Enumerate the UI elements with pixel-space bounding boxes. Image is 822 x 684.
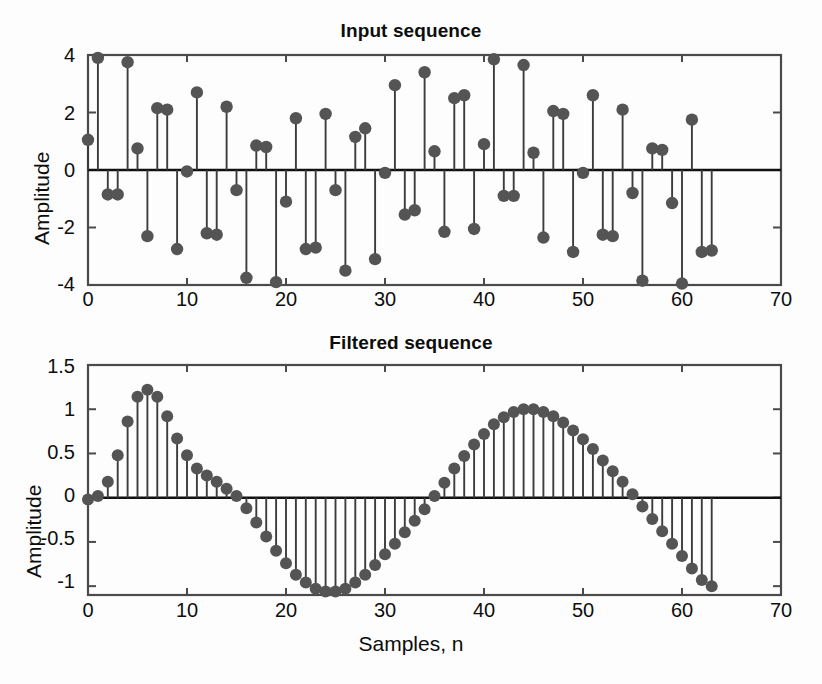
data-marker bbox=[587, 443, 599, 455]
data-marker bbox=[676, 277, 688, 289]
data-marker bbox=[468, 439, 480, 451]
data-marker bbox=[240, 272, 252, 284]
data-marker bbox=[517, 59, 529, 71]
data-marker bbox=[636, 274, 648, 286]
data-marker bbox=[220, 101, 232, 113]
data-marker bbox=[686, 562, 698, 574]
filtered-sequence-panel: Filtered sequence Amplitude Samples, n 1… bbox=[0, 320, 822, 684]
data-marker bbox=[627, 488, 639, 500]
data-marker bbox=[339, 583, 351, 595]
data-marker bbox=[171, 432, 183, 444]
data-marker bbox=[300, 577, 312, 589]
data-marker bbox=[706, 244, 718, 256]
data-marker bbox=[399, 526, 411, 538]
data-marker bbox=[122, 416, 134, 428]
data-marker bbox=[141, 230, 153, 242]
data-marker bbox=[389, 79, 401, 91]
data-marker bbox=[429, 490, 441, 502]
data-marker bbox=[181, 165, 193, 177]
data-marker bbox=[151, 391, 163, 403]
data-marker bbox=[488, 53, 500, 65]
data-marker bbox=[280, 195, 292, 207]
data-marker bbox=[211, 476, 223, 488]
data-marker bbox=[319, 108, 331, 120]
data-marker bbox=[468, 223, 480, 235]
data-marker bbox=[389, 538, 401, 550]
data-marker bbox=[102, 476, 114, 488]
data-marker bbox=[458, 450, 470, 462]
data-marker bbox=[597, 455, 609, 467]
data-marker bbox=[231, 490, 243, 502]
input-sequence-plot bbox=[0, 0, 822, 320]
data-marker bbox=[527, 147, 539, 159]
data-marker bbox=[359, 569, 371, 581]
data-marker bbox=[557, 108, 569, 120]
data-marker bbox=[181, 449, 193, 461]
data-marker bbox=[260, 531, 272, 543]
data-marker bbox=[92, 490, 104, 502]
plot-frame bbox=[88, 365, 781, 595]
data-marker bbox=[339, 264, 351, 276]
figure-canvas: Input sequence Amplitude 4 2 0 -2 -4 0 1… bbox=[0, 0, 822, 684]
data-marker bbox=[676, 550, 688, 562]
data-marker bbox=[656, 525, 668, 537]
data-marker bbox=[666, 197, 678, 209]
data-marker bbox=[270, 545, 282, 557]
data-marker bbox=[409, 204, 421, 216]
data-marker bbox=[112, 188, 124, 200]
data-marker bbox=[696, 574, 708, 586]
data-marker bbox=[636, 501, 648, 513]
data-marker bbox=[607, 230, 619, 242]
filtered-sequence-plot bbox=[0, 320, 822, 684]
data-marker bbox=[617, 476, 629, 488]
data-marker bbox=[230, 184, 242, 196]
data-marker bbox=[706, 580, 718, 592]
data-marker bbox=[656, 144, 668, 156]
data-marker bbox=[379, 167, 391, 179]
data-marker bbox=[646, 513, 658, 525]
data-marker bbox=[369, 253, 381, 265]
data-marker bbox=[428, 145, 440, 157]
data-marker bbox=[458, 89, 470, 101]
data-marker bbox=[418, 66, 430, 78]
data-marker bbox=[537, 231, 549, 243]
data-marker bbox=[290, 112, 302, 124]
data-marker bbox=[616, 103, 628, 115]
data-marker bbox=[567, 246, 579, 258]
data-marker bbox=[171, 243, 183, 255]
data-marker bbox=[132, 391, 144, 403]
stem-group bbox=[88, 390, 712, 592]
data-marker bbox=[438, 226, 450, 238]
data-marker bbox=[478, 138, 490, 150]
data-marker bbox=[141, 384, 153, 396]
data-marker bbox=[211, 228, 223, 240]
data-marker bbox=[131, 142, 143, 154]
data-marker bbox=[478, 428, 490, 440]
data-marker bbox=[82, 134, 94, 146]
data-marker bbox=[161, 410, 173, 422]
data-marker bbox=[666, 538, 678, 550]
data-marker bbox=[508, 190, 520, 202]
data-marker bbox=[626, 187, 638, 199]
input-sequence-panel: Input sequence Amplitude 4 2 0 -2 -4 0 1… bbox=[0, 0, 822, 320]
data-marker bbox=[567, 424, 579, 436]
data-marker bbox=[240, 502, 252, 514]
data-marker bbox=[577, 433, 589, 445]
data-marker bbox=[329, 184, 341, 196]
data-marker bbox=[270, 276, 282, 288]
data-marker bbox=[577, 167, 589, 179]
data-marker bbox=[349, 577, 361, 589]
data-marker bbox=[379, 548, 391, 560]
data-marker bbox=[191, 463, 203, 475]
data-marker bbox=[488, 418, 500, 430]
data-marker bbox=[161, 103, 173, 115]
data-marker bbox=[359, 122, 371, 134]
data-marker bbox=[250, 516, 262, 528]
data-marker bbox=[260, 141, 272, 153]
data-marker bbox=[369, 559, 381, 571]
data-marker bbox=[121, 56, 133, 68]
data-marker bbox=[310, 241, 322, 253]
data-marker bbox=[191, 86, 203, 98]
data-marker bbox=[419, 503, 431, 515]
data-marker bbox=[686, 113, 698, 125]
